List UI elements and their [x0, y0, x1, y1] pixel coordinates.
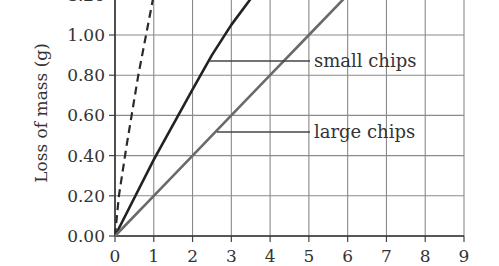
y-tick-label: 0.00: [67, 226, 105, 246]
large-chips-label: large chips: [314, 121, 415, 142]
x-tick-label: 3: [226, 246, 237, 266]
y-tick-labels: 0.000.200.400.600.801.001.20: [67, 0, 105, 246]
x-tick-label: 7: [381, 246, 392, 266]
x-tick-label: 5: [303, 246, 314, 266]
chart: 0.000.200.400.600.801.001.20 0123456789 …: [0, 0, 499, 266]
y-tick-label: 1.00: [67, 25, 105, 45]
x-tick-label: 6: [342, 246, 353, 266]
grid: [115, 0, 464, 236]
annotations: small chips large chips: [210, 50, 416, 142]
x-tick-label: 1: [148, 246, 159, 266]
x-tick-label: 8: [420, 246, 431, 266]
y-tick-label: 0.80: [67, 65, 105, 85]
small-chips-label: small chips: [314, 50, 416, 71]
y-tick-label: 0.40: [67, 146, 105, 166]
x-tick-label: 2: [187, 246, 198, 266]
x-tick-label: 9: [459, 246, 470, 266]
y-axis-title: Loss of mass (g): [31, 43, 51, 183]
y-tick-label: 1.20: [67, 0, 105, 5]
y-tick-label: 0.60: [67, 105, 105, 125]
x-tick-label: 0: [110, 246, 121, 266]
x-tick-label: 4: [265, 246, 276, 266]
y-tick-label: 0.20: [67, 186, 105, 206]
x-tick-labels: 0123456789: [110, 246, 470, 266]
